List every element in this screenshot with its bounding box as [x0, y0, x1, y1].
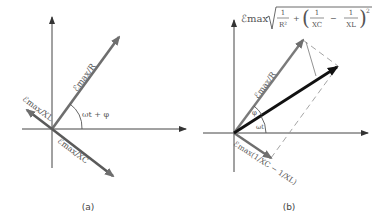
label-angle: ωt + φ: [82, 110, 110, 119]
phasor-diagram: ℰmax/R ℰmax/XL ℰmax/XC ωt + φ (a) φ ωt ℰ…: [0, 0, 389, 222]
label-emax-over-r: ℰmax/R: [71, 61, 98, 93]
dashed-side-top: [303, 40, 338, 66]
panel-a: ℰmax/R ℰmax/XL ℰmax/XC ωt + φ (a): [21, 17, 186, 212]
term2-numerator: 1: [315, 9, 319, 17]
caption-b: (b): [283, 202, 296, 212]
angle-arc: [70, 104, 82, 129]
formula-prefix: ℰmax: [241, 13, 268, 24]
left-paren: (: [302, 6, 310, 30]
vector-resultant: [234, 67, 337, 133]
term3-denominator: XL: [346, 21, 356, 29]
minus-sign: −: [330, 14, 337, 23]
term1-numerator: 1: [281, 9, 285, 17]
label-emax-over-r: ℰmax/R: [252, 69, 278, 100]
resultant-formula: ℰmax 1 R² + ( 1 XC − 1 XL ) 2: [241, 6, 372, 30]
leader-line: [306, 42, 316, 76]
term1-denominator: R²: [279, 21, 287, 29]
dashed-side-right: [271, 66, 338, 158]
label-omega-t: ωt: [256, 123, 264, 131]
plus-sign: +: [293, 14, 300, 23]
panel-b: φ ωt ℰmax/R ℰmax(1/XC − 1/XL) ℰmax 1 R² …: [203, 6, 372, 212]
label-phi: φ: [252, 109, 257, 117]
caption-a: (a): [82, 202, 95, 212]
label-emax-over-xc: ℰmax/XC: [56, 136, 90, 165]
exponent: 2: [366, 7, 370, 14]
label-emax-reactance-diff: ℰmax(1/XC − 1/XL): [232, 139, 299, 187]
term2-denominator: XC: [312, 21, 322, 29]
term3-numerator: 1: [349, 9, 353, 17]
